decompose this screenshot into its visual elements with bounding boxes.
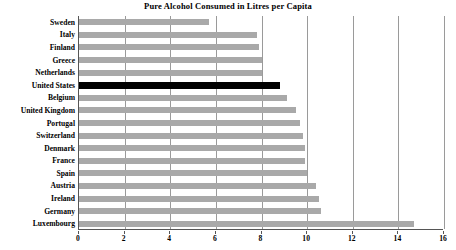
bar-row: [79, 154, 444, 167]
bar-united-kingdom: [79, 107, 296, 113]
bar-belgium: [79, 95, 287, 101]
y-label-sweden: Sweden: [0, 18, 75, 27]
bar-united-states: [79, 82, 280, 89]
bar-row: [79, 129, 444, 142]
bar-switzerland: [79, 133, 303, 139]
bar-row: [79, 92, 444, 105]
y-label-spain: Spain: [0, 169, 75, 178]
y-label-united-states: United States: [0, 81, 75, 90]
bar-row: [79, 167, 444, 180]
bar-luxembourg: [79, 221, 414, 227]
y-axis-category-labels: SwedenItalyFinlandGreeceNetherlandsUnite…: [0, 16, 75, 230]
bar-row: [79, 54, 444, 67]
bar-ireland: [79, 196, 319, 202]
bars-group: [79, 16, 443, 229]
x-tick-label-12: 12: [348, 234, 356, 243]
chart-title: Pure Alcohol Consumed in Litres per Capi…: [0, 1, 456, 11]
bar-row: [79, 29, 444, 42]
bar-row: [79, 79, 444, 92]
bar-spain: [79, 170, 307, 176]
x-tick-label-8: 8: [259, 234, 263, 243]
plot-area: [78, 16, 443, 230]
y-label-germany: Germany: [0, 207, 75, 216]
y-label-france: France: [0, 156, 75, 165]
bar-greece: [79, 57, 262, 63]
bar-netherlands: [79, 70, 262, 76]
y-label-switzerland: Switzerland: [0, 131, 75, 140]
y-label-netherlands: Netherlands: [0, 68, 75, 77]
y-label-finland: Finland: [0, 43, 75, 52]
x-axis-tick-labels: 0246810121416: [78, 231, 443, 247]
bar-row: [79, 117, 444, 130]
bar-row: [79, 180, 444, 193]
x-tick-label-16: 16: [439, 234, 447, 243]
bar-row: [79, 205, 444, 218]
bar-row: [79, 104, 444, 117]
bar-chart: Pure Alcohol Consumed in Litres per Capi…: [0, 0, 456, 250]
bar-france: [79, 158, 305, 164]
x-tick-label-10: 10: [302, 234, 310, 243]
y-label-portugal: Portugal: [0, 119, 75, 128]
bar-row: [79, 41, 444, 54]
x-tick-label-4: 4: [167, 234, 171, 243]
bar-row: [79, 66, 444, 79]
y-label-denmark: Denmark: [0, 144, 75, 153]
bar-row: [79, 142, 444, 155]
bar-row: [79, 192, 444, 205]
bar-sweden: [79, 19, 209, 25]
x-tick-label-0: 0: [76, 234, 80, 243]
bar-row: [79, 16, 444, 29]
x-tick-label-6: 6: [213, 234, 217, 243]
gridline-16: [444, 16, 445, 229]
y-label-ireland: Ireland: [0, 194, 75, 203]
bar-portugal: [79, 120, 300, 126]
y-label-greece: Greece: [0, 56, 75, 65]
y-label-luxembourg: Luxembourg: [0, 219, 75, 228]
y-label-united-kingdom: United Kingdom: [0, 106, 75, 115]
bar-germany: [79, 208, 321, 214]
bar-austria: [79, 183, 316, 189]
y-label-belgium: Belgium: [0, 93, 75, 102]
y-label-italy: Italy: [0, 30, 75, 39]
bar-italy: [79, 32, 257, 38]
x-tick-label-14: 14: [394, 234, 402, 243]
bar-row: [79, 217, 444, 230]
bar-denmark: [79, 145, 305, 151]
x-tick-label-2: 2: [122, 234, 126, 243]
bar-finland: [79, 44, 259, 50]
y-label-austria: Austria: [0, 181, 75, 190]
